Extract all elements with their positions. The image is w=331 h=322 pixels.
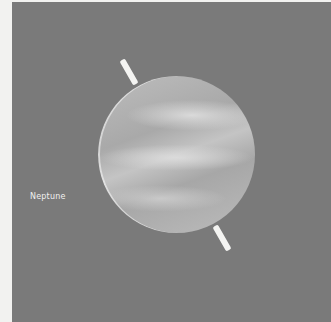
rotation-axis-south (212, 224, 231, 251)
rotation-axis-north (119, 58, 138, 85)
planet-label: Neptune (30, 192, 66, 201)
illustration-panel: Neptune (12, 2, 331, 322)
neptune-planet (98, 76, 255, 233)
